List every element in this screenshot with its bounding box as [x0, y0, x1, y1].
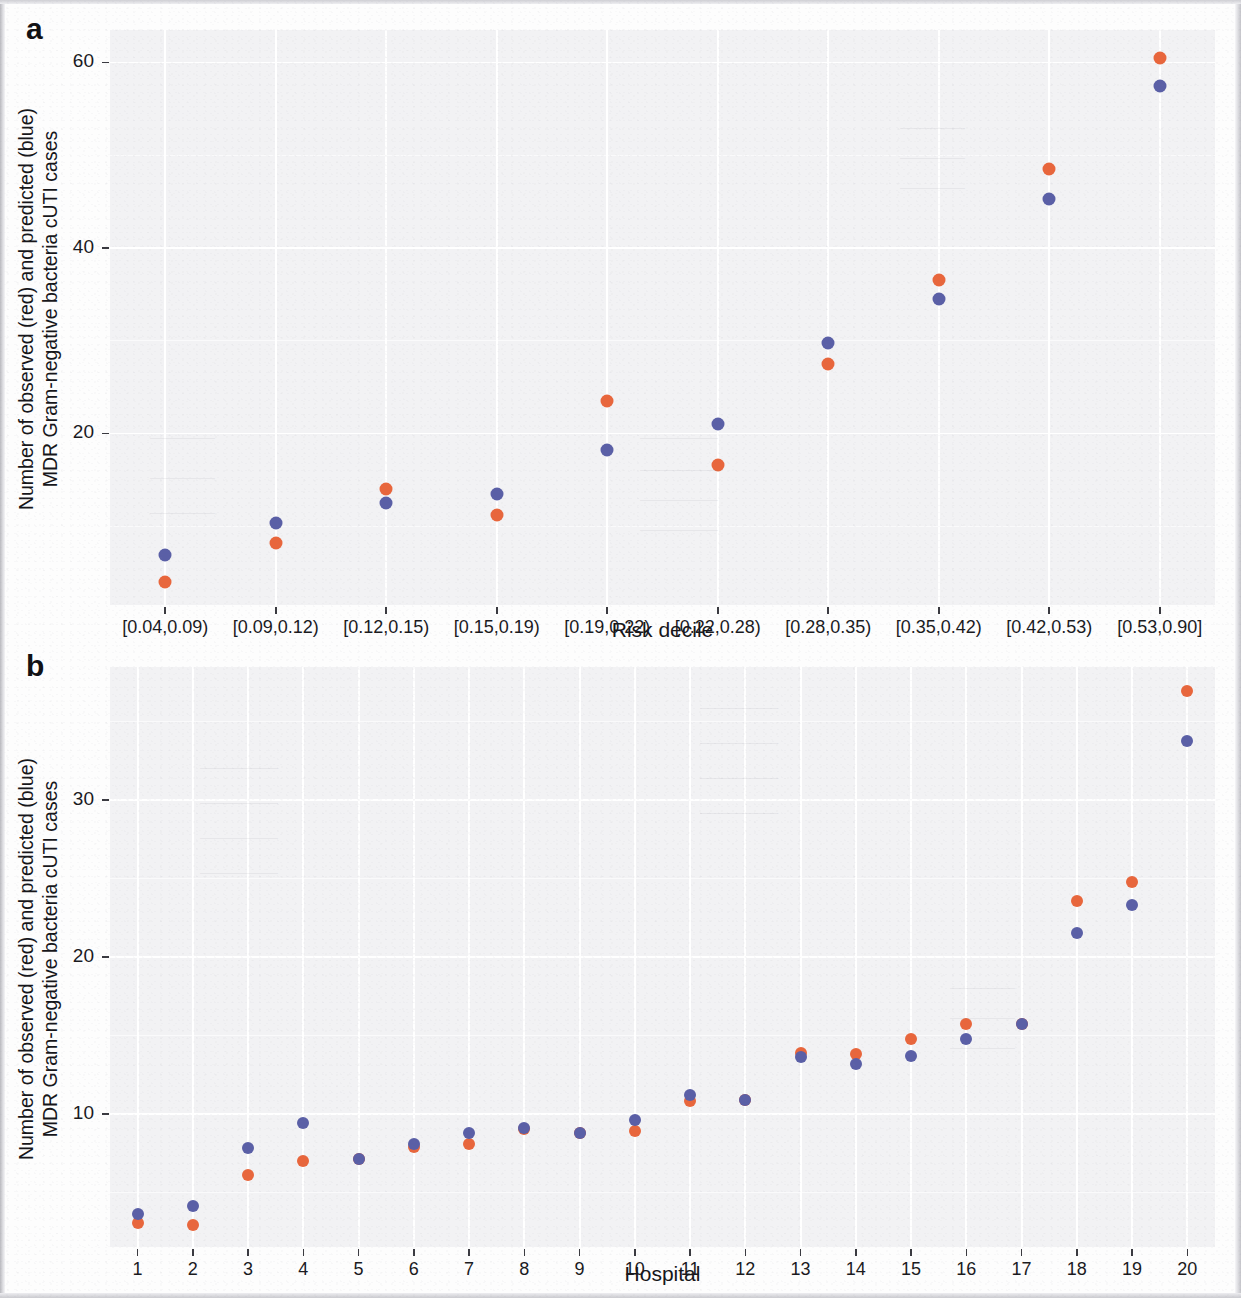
- x-gridline-major: [1021, 667, 1023, 1247]
- x-tick-label: 19: [1122, 1259, 1142, 1280]
- x-tick-label: 18: [1067, 1259, 1087, 1280]
- data-point-observed: [1071, 895, 1083, 907]
- data-point-predicted: [159, 548, 172, 561]
- x-tick-label: [0.04,0.09): [122, 617, 208, 638]
- x-gridline-major: [910, 667, 912, 1247]
- y-tick-label: 30: [32, 788, 94, 810]
- x-gridline-major: [1186, 667, 1188, 1247]
- x-tick-mark: [938, 607, 940, 614]
- x-gridline-major: [827, 30, 829, 605]
- figure-root: a Number of observed (red) and predicted…: [0, 0, 1241, 1298]
- data-point-observed: [159, 575, 172, 588]
- x-gridline-major: [192, 667, 194, 1247]
- x-tick-mark: [275, 607, 277, 614]
- data-point-predicted: [297, 1117, 309, 1129]
- data-point-observed: [1126, 876, 1138, 888]
- x-gridline-major: [938, 30, 940, 605]
- x-tick-mark: [137, 1249, 139, 1256]
- data-point-predicted: [905, 1050, 917, 1062]
- y-tick-label: 20: [32, 945, 94, 967]
- x-gridline-major: [1131, 667, 1133, 1247]
- data-point-predicted: [187, 1200, 199, 1212]
- data-point-predicted: [850, 1058, 862, 1070]
- data-point-observed: [490, 509, 503, 522]
- x-tick-mark: [496, 607, 498, 614]
- x-tick-label: 13: [791, 1259, 811, 1280]
- x-tick-label: [0.19,0.22): [564, 617, 650, 638]
- x-gridline-major: [579, 667, 581, 1247]
- x-tick-mark: [966, 1249, 968, 1256]
- x-gridline-major: [689, 667, 691, 1247]
- data-point-predicted: [353, 1153, 365, 1165]
- data-point-predicted: [1043, 192, 1056, 205]
- data-point-predicted: [711, 418, 724, 431]
- y-tick-mark: [102, 247, 109, 249]
- x-tick-label: 6: [409, 1259, 419, 1280]
- data-point-observed: [1153, 51, 1166, 64]
- data-point-observed: [297, 1155, 309, 1167]
- data-point-observed: [905, 1033, 917, 1045]
- y-tick-mark: [102, 956, 109, 958]
- x-tick-mark: [606, 607, 608, 614]
- x-tick-mark: [1048, 607, 1050, 614]
- x-tick-label: [0.42,0.53): [1006, 617, 1092, 638]
- y-gridline-minor: [110, 1035, 1215, 1036]
- x-tick-label: [0.12,0.15): [343, 617, 429, 638]
- data-point-predicted: [518, 1122, 530, 1134]
- x-tick-label: [0.09,0.12): [233, 617, 319, 638]
- x-tick-label: 10: [625, 1259, 645, 1280]
- data-point-predicted: [1016, 1018, 1028, 1030]
- x-tick-mark: [1187, 1249, 1189, 1256]
- x-tick-mark: [524, 1249, 526, 1256]
- x-gridline-major: [413, 667, 415, 1247]
- x-tick-label: 3: [243, 1259, 253, 1280]
- scan-edge-bottom: [0, 1293, 1241, 1298]
- scan-edge-right: [1235, 0, 1241, 1298]
- x-gridline-major: [800, 667, 802, 1247]
- y-gridline-major: [110, 1113, 1215, 1115]
- data-point-observed: [629, 1125, 641, 1137]
- x-gridline-major: [1159, 30, 1161, 605]
- data-point-predicted: [269, 517, 282, 530]
- y-gridline-minor: [110, 878, 1215, 879]
- x-gridline-major: [523, 667, 525, 1247]
- x-gridline-major: [717, 30, 719, 605]
- y-tick-label: 10: [32, 1102, 94, 1124]
- data-point-predicted: [1071, 927, 1083, 939]
- x-tick-label: 4: [298, 1259, 308, 1280]
- x-gridline-major: [137, 667, 139, 1247]
- x-tick-label: [0.15,0.19): [454, 617, 540, 638]
- data-point-predicted: [463, 1127, 475, 1139]
- x-gridline-major: [634, 667, 636, 1247]
- data-point-predicted: [1153, 79, 1166, 92]
- y-tick-mark: [102, 62, 109, 64]
- data-point-predicted: [739, 1094, 751, 1106]
- x-tick-label: [0.22,0.28): [675, 617, 761, 638]
- y-gridline-major: [110, 799, 1215, 801]
- x-tick-mark: [247, 1249, 249, 1256]
- x-tick-label: 9: [575, 1259, 585, 1280]
- panel-a-y-axis-label: Number of observed (red) and predicted (…: [14, 59, 62, 559]
- x-gridline-major: [855, 667, 857, 1247]
- data-point-observed: [269, 536, 282, 549]
- x-tick-mark: [1021, 1249, 1023, 1256]
- data-point-observed: [1043, 163, 1056, 176]
- y-tick-label: 40: [32, 236, 94, 258]
- x-gridline-major: [468, 667, 470, 1247]
- x-tick-mark: [579, 1249, 581, 1256]
- y-gridline-minor: [110, 721, 1215, 722]
- panel-a: a Number of observed (red) and predicted…: [0, 0, 1241, 645]
- x-tick-mark: [717, 607, 719, 614]
- x-gridline-major: [164, 30, 166, 605]
- x-tick-label: 8: [519, 1259, 529, 1280]
- x-tick-label: 14: [846, 1259, 866, 1280]
- x-gridline-major: [606, 30, 608, 605]
- data-point-predicted: [932, 292, 945, 305]
- x-tick-label: 16: [956, 1259, 976, 1280]
- x-tick-mark: [385, 607, 387, 614]
- x-tick-mark: [855, 1249, 857, 1256]
- x-tick-mark: [164, 607, 166, 614]
- data-point-predicted: [1126, 899, 1138, 911]
- x-tick-mark: [468, 1249, 470, 1256]
- panel-b: b Number of observed (red) and predicted…: [0, 645, 1241, 1298]
